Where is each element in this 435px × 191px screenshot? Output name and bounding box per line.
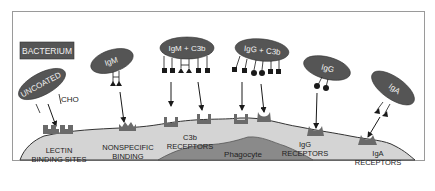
phagocyte-label: Phagocyte (224, 150, 262, 159)
igg-receptor-label-line1: IgG (299, 140, 311, 149)
igg-receptor-label-line2: RECEPTORS (282, 149, 329, 158)
nonspecific-label-line1: NONSPECIFIC (102, 143, 154, 152)
iga-receptor-label-line1: IgA (372, 149, 383, 158)
phagocytosis-diagram: Phagocyte BACTERIUM UNCOATED CHO LECTIN … (0, 0, 435, 191)
c3b-label-line1: C3b (183, 133, 197, 142)
nonspecific-label-line2: BINDING (112, 152, 143, 161)
bacterium-igm-c3b-label: IgM + C3b (168, 44, 206, 53)
lectin-label-line1: LECTIN (46, 146, 73, 155)
bacterium-title-label: BACTERIUM (22, 46, 72, 56)
cho-annotation: CHO (61, 95, 79, 104)
iga-receptor-label-line2: RECEPTORS (355, 158, 402, 167)
c3b-label-line2: RECEPTORS (167, 142, 214, 151)
lectin-label-line2: BINDING SITES (31, 155, 86, 164)
